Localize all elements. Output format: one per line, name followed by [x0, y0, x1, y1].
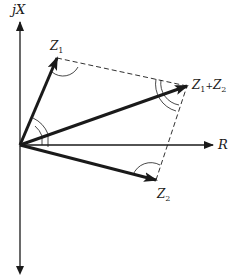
label-z1: Z1	[49, 39, 63, 55]
phasor-diagram: jX R Z1 Z2 Z1+Z2	[0, 0, 232, 275]
label-z1-plus-z2: Z1+Z2	[191, 78, 226, 94]
vector-z1	[20, 58, 57, 145]
angle-arc-z2	[133, 163, 160, 175]
vector-z2	[20, 145, 156, 180]
real-axis-label: R	[217, 137, 228, 152]
label-z2: Z2	[156, 187, 170, 203]
dashed-side-z1-to-sum	[57, 58, 187, 86]
imaginary-axis-bottom-arrow-icon	[16, 266, 24, 275]
imaginary-axis-label: jX	[9, 2, 26, 17]
angle-arc-origin-inner	[35, 126, 42, 145]
angle-arc-z1	[52, 67, 78, 76]
vector-z1-plus-z2	[20, 86, 187, 145]
